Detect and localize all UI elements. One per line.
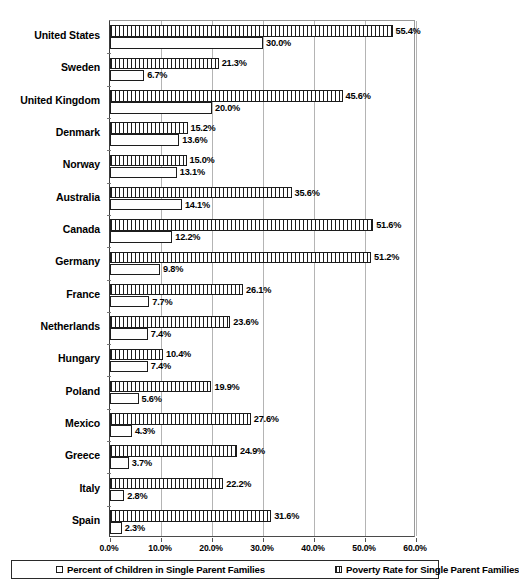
bar-children-percent — [110, 457, 129, 469]
bar-poverty-rate — [110, 349, 163, 361]
bar-children-percent — [110, 102, 212, 114]
bar-value-poverty-rate: 35.6% — [295, 188, 320, 198]
bar-poverty-rate — [110, 510, 271, 522]
chart-legend: Percent of Children in Single Parent Fam… — [11, 560, 439, 579]
bar-children-percent — [110, 296, 149, 308]
value-axis-labels: 0.0%10.0%20.0%30.0%40.0%50.0%60.0% — [109, 543, 415, 557]
bar-group: 21.3%6.7% — [110, 53, 414, 85]
bar-value-children-percent: 12.2% — [175, 232, 200, 242]
bar-poverty-rate — [110, 25, 393, 37]
category-label-spain: Spain — [72, 515, 100, 526]
bar-group: 15.0%13.1% — [110, 150, 414, 182]
x-axis-tick-label: 0.0% — [100, 543, 119, 553]
bar-children-percent — [110, 393, 139, 405]
category-label-hungary: Hungary — [58, 353, 100, 364]
category-label-norway: Norway — [63, 159, 100, 170]
bar-poverty-rate — [110, 219, 373, 231]
bar-value-poverty-rate: 23.6% — [233, 317, 258, 327]
bar-value-children-percent: 5.6% — [142, 394, 162, 404]
x-tick-mark — [416, 538, 417, 542]
bar-value-poverty-rate: 51.6% — [376, 220, 401, 230]
category-label-denmark: Denmark — [56, 127, 100, 138]
bar-value-children-percent: 30.0% — [266, 38, 291, 48]
bar-poverty-rate — [110, 122, 188, 134]
bar-poverty-rate — [110, 381, 211, 393]
category-label-france: France — [66, 289, 100, 300]
bar-value-poverty-rate: 21.3% — [222, 58, 247, 68]
bar-group: 27.6%4.3% — [110, 409, 414, 441]
x-tick-mark — [314, 538, 315, 542]
bar-value-children-percent: 7.7% — [152, 297, 172, 307]
category-label-sweden: Sweden — [61, 62, 100, 73]
category-label-mexico: Mexico — [65, 418, 100, 429]
bar-group: 35.6%14.1% — [110, 183, 414, 215]
x-axis-tick-label: 60.0% — [403, 543, 426, 553]
category-label-germany: Germany — [55, 256, 100, 267]
bar-group: 23.6%7.4% — [110, 312, 414, 344]
bar-poverty-rate — [110, 284, 243, 296]
category-label-italy: Italy — [79, 483, 100, 494]
bar-value-poverty-rate: 27.6% — [254, 414, 279, 424]
bar-children-percent — [110, 231, 172, 243]
category-label-australia: Australia — [56, 192, 100, 203]
category-label-united-kingdom: United Kingdom — [20, 95, 100, 106]
bar-group: 51.2%9.8% — [110, 247, 414, 279]
bar-group: 51.6%12.2% — [110, 215, 414, 247]
bar-children-percent — [110, 425, 132, 437]
bar-poverty-rate — [110, 187, 292, 199]
bar-poverty-rate — [110, 478, 223, 490]
x-tick-mark — [263, 538, 264, 542]
bar-poverty-rate — [110, 155, 187, 167]
bar-group: 45.6%20.0% — [110, 86, 414, 118]
bar-value-poverty-rate: 45.6% — [346, 91, 371, 101]
bar-value-poverty-rate: 51.2% — [374, 252, 399, 262]
bar-value-children-percent: 4.3% — [135, 426, 155, 436]
gridline-60.0 — [416, 21, 417, 536]
bar-value-children-percent: 13.6% — [182, 135, 207, 145]
bar-value-poverty-rate: 15.2% — [191, 123, 216, 133]
bar-children-percent — [110, 134, 179, 146]
bar-poverty-rate — [110, 252, 371, 264]
category-label-greece: Greece — [65, 450, 100, 461]
bar-poverty-rate — [110, 90, 343, 102]
x-axis-tick-label: 30.0% — [250, 543, 273, 553]
x-tick-mark — [212, 538, 213, 542]
bar-group: 22.2%2.8% — [110, 473, 414, 505]
x-axis-tick-label: 10.0% — [148, 543, 171, 553]
bar-value-children-percent: 20.0% — [215, 103, 240, 113]
bar-group: 15.2%13.6% — [110, 118, 414, 150]
bar-group: 55.4%30.0% — [110, 21, 414, 53]
bar-value-children-percent: 6.7% — [147, 70, 167, 80]
empty-square-icon — [56, 566, 63, 573]
bar-children-percent — [110, 522, 122, 534]
bar-children-percent — [110, 37, 263, 49]
category-label-canada: Canada — [63, 224, 100, 235]
bar-children-percent — [110, 199, 182, 211]
legend-item-poverty: Poverty Rate for Single Parent Families — [335, 564, 519, 575]
category-axis-labels: United StatesSwedenUnited KingdomDenmark… — [0, 20, 104, 537]
bar-value-poverty-rate: 24.9% — [240, 446, 265, 456]
legend-item-children: Percent of Children in Single Parent Fam… — [56, 564, 265, 575]
legend-label-children: Percent of Children in Single Parent Fam… — [67, 564, 265, 575]
x-tick-mark — [110, 538, 111, 542]
hatched-square-icon — [335, 566, 342, 573]
x-axis-tick-label: 40.0% — [301, 543, 324, 553]
bar-value-children-percent: 2.3% — [125, 523, 145, 533]
bar-poverty-rate — [110, 316, 230, 328]
bar-value-poverty-rate: 31.6% — [274, 511, 299, 521]
category-label-united-states: United States — [34, 30, 100, 41]
legend-label-poverty: Poverty Rate for Single Parent Families — [346, 564, 519, 575]
bar-poverty-rate — [110, 445, 237, 457]
bar-children-percent — [110, 264, 160, 276]
bar-value-poverty-rate: 19.9% — [214, 382, 239, 392]
bar-group: 19.9%5.6% — [110, 376, 414, 408]
x-axis-tick-label: 20.0% — [199, 543, 222, 553]
bar-group: 10.4%7.4% — [110, 344, 414, 376]
bar-value-children-percent: 9.8% — [163, 264, 183, 274]
bar-children-percent — [110, 490, 124, 502]
bar-children-percent — [110, 328, 148, 340]
bar-group: 31.6%2.3% — [110, 506, 414, 538]
category-label-poland: Poland — [66, 386, 100, 397]
x-tick-mark — [365, 538, 366, 542]
